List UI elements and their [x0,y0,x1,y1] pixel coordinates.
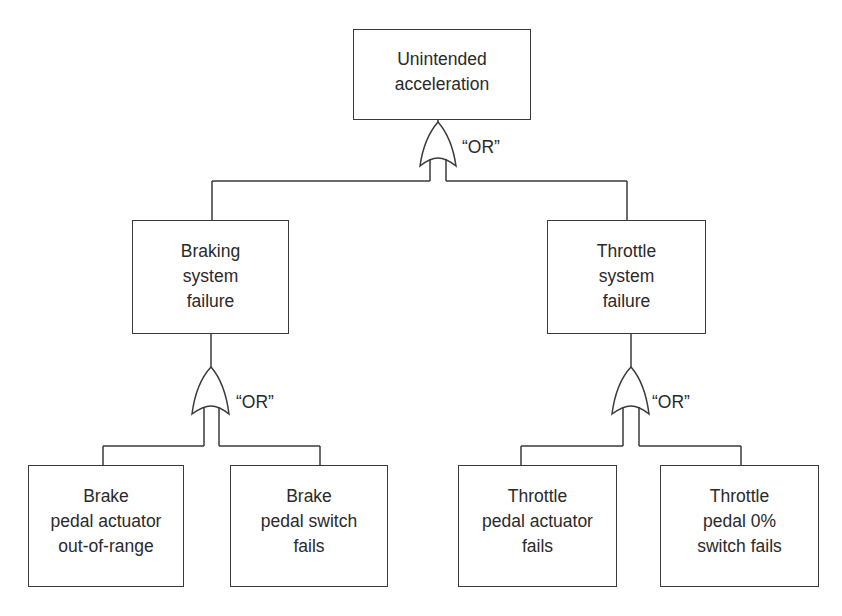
brake-pedal-actuator-node: Brake pedal actuator out-of-range [28,465,184,587]
brake-pedal-switch-node: Brake pedal switch fails [230,465,388,587]
top-event-node: Unintended acceleration [353,29,531,120]
node-text-line: Unintended [397,47,487,72]
node-text-line: pedal switch [261,509,357,534]
node-text-line: failure [187,289,235,314]
node-text-line: system [183,264,238,289]
node-text-line: Braking [181,239,240,264]
throttle-system-failure-node: Throttle system failure [547,220,706,334]
node-text-line: failure [603,289,651,314]
or-gate-symbol-left [192,367,229,414]
braking-system-failure-node: Braking system failure [132,220,289,334]
node-text-line: Throttle [597,239,656,264]
node-text-line: fails [293,534,324,559]
node-text-line: switch fails [697,534,782,559]
or-gate-symbol-right [612,367,649,414]
throttle-pedal-switch-node: Throttle pedal 0% switch fails [660,465,819,587]
node-text-line: out-of-range [58,534,153,559]
throttle-pedal-actuator-node: Throttle pedal actuator fails [458,465,617,587]
node-text-line: acceleration [395,72,489,97]
node-text-line: fails [522,534,553,559]
node-text-line: pedal actuator [51,509,162,534]
node-text-line: Throttle [508,484,567,509]
node-text-line: Brake [83,484,129,509]
or-gate-symbol-top [420,122,456,166]
node-text-line: Brake [286,484,332,509]
top-gate-label: “OR” [462,137,500,157]
right-gate-label: “OR” [652,392,690,412]
node-text-line: Throttle [710,484,769,509]
node-text-line: pedal 0% [703,509,776,534]
left-gate-label: “OR” [236,392,274,412]
node-text-line: pedal actuator [482,509,593,534]
fault-tree-diagram: Unintended acceleration “OR” Braking sys… [0,0,842,616]
node-text-line: system [599,264,654,289]
